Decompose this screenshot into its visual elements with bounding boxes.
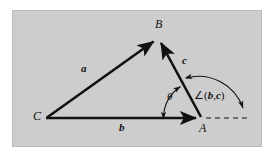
vector-label-b: b — [119, 122, 125, 133]
vector-a-line — [47, 42, 154, 118]
angle-notation-suffix: ) — [221, 89, 225, 101]
vertex-label-A: A — [199, 122, 206, 134]
angle-notation-prefix: ∠( — [194, 89, 208, 101]
vector-c-line — [161, 43, 201, 117]
vector-label-c: c — [182, 55, 187, 66]
vertex-label-B: B — [155, 18, 162, 30]
vector-diagram-svg — [0, 0, 277, 163]
angle-label-b-c: ∠(b,c) — [194, 90, 224, 101]
vector-label-a: a — [81, 63, 87, 74]
figure-root: B C A a b c θ ∠(b,c) — [0, 0, 277, 163]
angle-label-theta: θ — [167, 91, 172, 102]
vertex-label-C: C — [33, 110, 41, 122]
